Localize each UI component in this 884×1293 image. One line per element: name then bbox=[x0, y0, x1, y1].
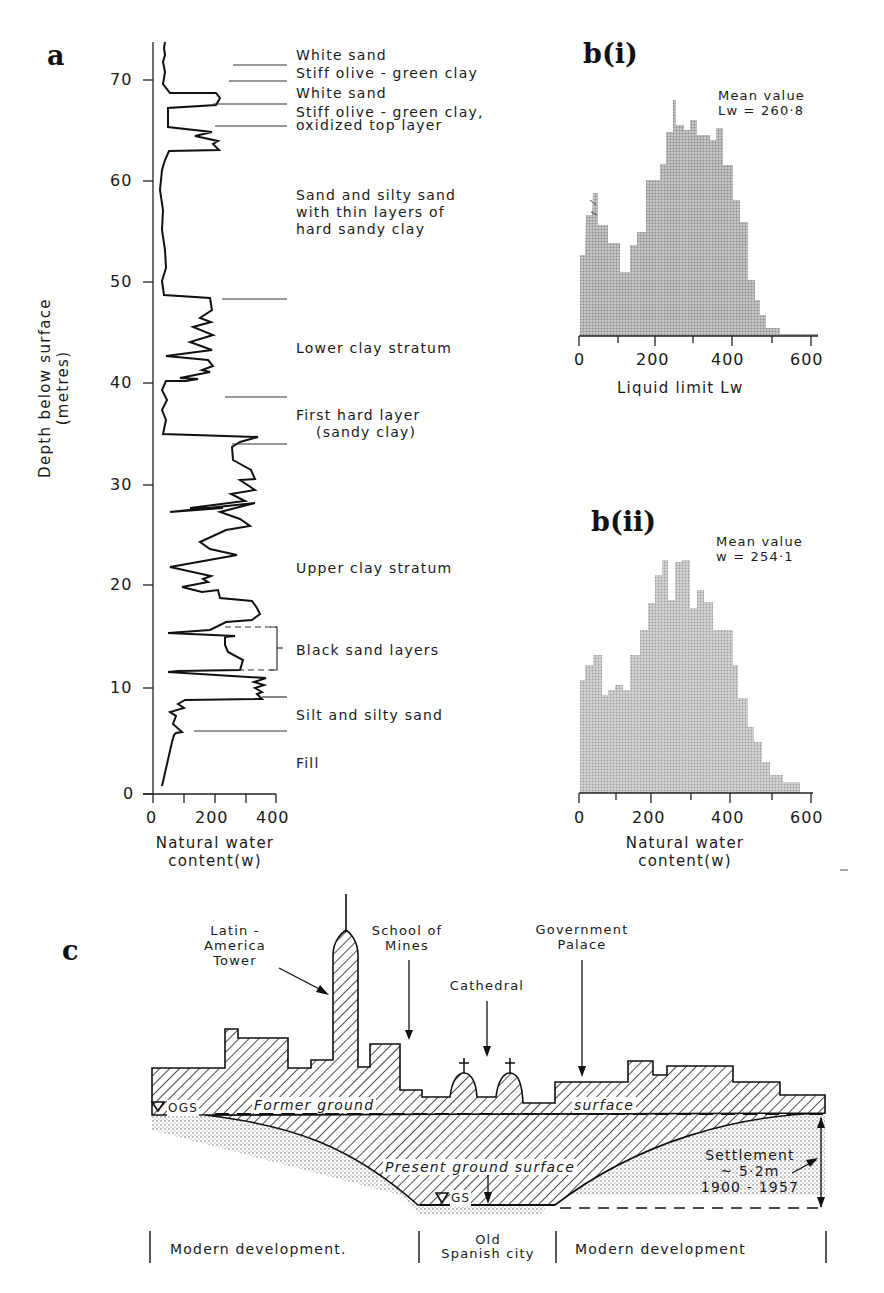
label-settlement: Settlement ~ 5·2m 1900 - 1957 bbox=[690, 1147, 810, 1195]
stratum-silt: Silt and silty sand bbox=[296, 707, 443, 723]
zone-old-spanish-city: Old Spanish city bbox=[420, 1233, 556, 1261]
tower-line1: Latin - bbox=[190, 923, 280, 938]
settlement-line3: 1900 - 1957 bbox=[690, 1179, 810, 1195]
mines-line2: Mines bbox=[362, 938, 452, 953]
b1-x-tick-600: 600 bbox=[790, 350, 824, 369]
panel-b2-axis bbox=[579, 793, 813, 803]
b1-xlabel: Liquid limit Lw bbox=[617, 380, 743, 396]
xlabel-line1: Natural water bbox=[135, 834, 295, 852]
zone-modern-right: Modern development bbox=[575, 1241, 746, 1257]
b1-x-tick-0: 0 bbox=[574, 350, 585, 369]
panel-b1-axis bbox=[579, 336, 818, 346]
stratum-sand-1: Sand and silty sand bbox=[296, 187, 456, 203]
stratum-lower-clay: Lower clay stratum bbox=[296, 340, 452, 356]
tower-line3: Tower bbox=[190, 953, 280, 968]
x-tick-400: 400 bbox=[256, 808, 290, 827]
ylabel-line2: (metres) bbox=[54, 278, 72, 498]
stratum-hard-layer-1: First hard layer bbox=[296, 407, 421, 423]
y-tick-60: 60 bbox=[110, 171, 132, 190]
stratum-olive-clay-2b: oxidized top layer bbox=[296, 117, 443, 133]
b1-mean-line1: Mean value bbox=[718, 88, 805, 103]
b2-mean-line2: w = 254·1 bbox=[716, 549, 803, 564]
panel-a-ylabel: Depth below surface (metres) bbox=[36, 278, 72, 498]
label-ogs: OGS bbox=[167, 1100, 199, 1116]
histogram-natural-water bbox=[580, 560, 800, 793]
b2-x-tick-0: 0 bbox=[574, 808, 585, 827]
b2-x-tick-200: 200 bbox=[632, 808, 666, 827]
stratum-black-sand: Black sand layers bbox=[296, 642, 439, 658]
cathedral-crosses bbox=[459, 1058, 515, 1073]
stratum-white-sand-1: White sand bbox=[296, 47, 387, 63]
panel-a-xlabel: Natural water content(w) bbox=[135, 834, 295, 870]
stratum-sand-3: hard sandy clay bbox=[296, 221, 425, 237]
y-tick-20: 20 bbox=[110, 575, 132, 594]
palace-line2: Palace bbox=[527, 937, 637, 952]
y-tick-30: 30 bbox=[110, 475, 132, 494]
b2-xlabel: Natural water content(w) bbox=[600, 834, 770, 870]
x-tick-200: 200 bbox=[195, 808, 229, 827]
stratum-hard-layer-2: (sandy clay) bbox=[316, 424, 416, 440]
histogram-liquid-limit bbox=[580, 100, 818, 336]
xlabel-line2: content(w) bbox=[135, 852, 295, 870]
stratum-olive-clay-1: Stiff olive - green clay bbox=[296, 65, 478, 81]
settlement-line2: ~ 5·2m bbox=[690, 1163, 810, 1179]
mines-line1: School of bbox=[362, 923, 452, 938]
b2-xlabel-line1: Natural water bbox=[600, 834, 770, 852]
b2-xlabel-line2: content(w) bbox=[600, 852, 770, 870]
b1-x-tick-400: 400 bbox=[711, 350, 745, 369]
y-tick-50: 50 bbox=[110, 272, 132, 291]
label-government-palace: Government Palace bbox=[527, 922, 637, 952]
y-tick-10: 10 bbox=[110, 678, 132, 697]
b2-x-tick-600: 600 bbox=[790, 808, 824, 827]
b1-mean-label: Mean value Lw = 260·8 bbox=[718, 88, 805, 118]
ylabel-line1: Depth below surface bbox=[36, 278, 54, 498]
b1-x-tick-200: 200 bbox=[636, 350, 670, 369]
stratum-fill: Fill bbox=[296, 755, 320, 771]
label-school-of-mines: School of Mines bbox=[362, 923, 452, 953]
stratum-sand-2: with thin layers of bbox=[296, 204, 445, 220]
settlement-line1: Settlement bbox=[690, 1147, 810, 1163]
y-tick-40: 40 bbox=[110, 373, 132, 392]
label-gs: GS bbox=[450, 1190, 471, 1206]
zone-modern-left: Modern development. bbox=[170, 1241, 347, 1257]
label-cathedral: Cathedral bbox=[437, 978, 537, 994]
y-tick-0: 0 bbox=[123, 784, 134, 803]
stratum-upper-clay: Upper clay stratum bbox=[296, 560, 452, 576]
b2-mean-line1: Mean value bbox=[716, 534, 803, 549]
b2-x-tick-400: 400 bbox=[711, 808, 745, 827]
b1-mean-line2: Lw = 260·8 bbox=[718, 103, 805, 118]
label-latin-america-tower: Latin - America Tower bbox=[190, 923, 280, 968]
tower-line2: America bbox=[190, 938, 280, 953]
x-tick-0: 0 bbox=[146, 808, 157, 827]
water-content-profile bbox=[160, 42, 266, 786]
label-former-surface: surface bbox=[572, 1097, 636, 1113]
label-present-ground: Present ground surface bbox=[383, 1159, 577, 1175]
zone-mid-line2: Spanish city bbox=[420, 1247, 556, 1261]
zone-mid-line1: Old bbox=[420, 1233, 556, 1247]
label-former-ground: Former ground bbox=[252, 1097, 376, 1113]
palace-line1: Government bbox=[527, 922, 637, 937]
y-tick-70: 70 bbox=[110, 70, 132, 89]
stratum-white-sand-2: White sand bbox=[296, 85, 387, 101]
b2-mean-label: Mean value w = 254·1 bbox=[716, 534, 803, 564]
black-sand-bracket bbox=[225, 627, 283, 670]
